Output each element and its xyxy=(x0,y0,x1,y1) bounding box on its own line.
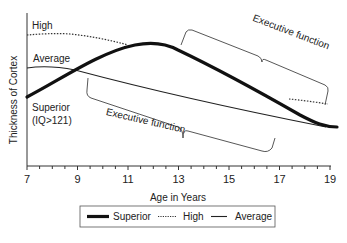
series-high-line xyxy=(27,34,128,45)
x-tick-label: 17 xyxy=(273,173,285,185)
y-axis-label: Thickness of Cortex xyxy=(8,56,19,144)
x-tick-label: 9 xyxy=(74,173,80,185)
x-ticks xyxy=(27,166,330,170)
x-tick-label: 11 xyxy=(122,173,133,185)
label-exec-upper: Executive function xyxy=(251,12,331,51)
x-tick-label: 15 xyxy=(223,173,235,185)
x-tick-label: 7 xyxy=(24,173,30,185)
label-superior-iq: (IQ>121) xyxy=(32,115,72,126)
label-average: Average xyxy=(33,53,71,64)
label-high: High xyxy=(32,20,53,31)
label-superior: Superior xyxy=(32,102,70,113)
series-high-line-tail xyxy=(289,99,328,104)
series-average-line xyxy=(27,67,326,127)
x-axis-label: Age in Years xyxy=(150,192,206,203)
legend-high-label: High xyxy=(183,211,204,222)
label-exec-lower: Executive function xyxy=(105,106,187,135)
cortex-thickness-chart: 7 9 11 13 15 17 19 Age in Years Thicknes… xyxy=(0,0,347,243)
x-tick-label: 19 xyxy=(324,173,336,185)
legend: Superior High Average xyxy=(80,206,275,227)
legend-superior-label: Superior xyxy=(113,211,151,222)
x-tick-labels: 7 9 11 13 15 17 19 xyxy=(24,173,336,185)
legend-average-label: Average xyxy=(235,211,273,222)
series-superior-line xyxy=(27,43,337,127)
x-tick-label: 13 xyxy=(172,173,184,185)
